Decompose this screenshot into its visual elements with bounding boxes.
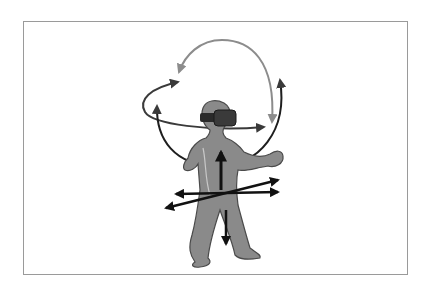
six-dof-diagram [0,0,432,294]
